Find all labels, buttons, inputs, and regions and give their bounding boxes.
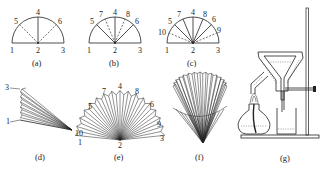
label-7: 7 bbox=[102, 87, 106, 96]
pleat-top bbox=[22, 88, 26, 89]
panel-a: 1 2 3 4 5 6 (a) bbox=[10, 8, 65, 68]
label-2: 2 bbox=[118, 141, 122, 150]
pleat-edge bbox=[21, 94, 23, 97]
caption-f: (f) bbox=[195, 152, 204, 162]
label-8: 8 bbox=[126, 10, 130, 19]
label-10: 10 bbox=[75, 129, 83, 138]
label-3: 3 bbox=[216, 46, 220, 55]
panel-d bbox=[20, 88, 72, 130]
label-6: 6 bbox=[150, 100, 154, 109]
leader-3 bbox=[10, 88, 20, 89]
label-2: 2 bbox=[113, 46, 117, 55]
crease-2-6 bbox=[193, 25, 211, 43]
caption-c: (c) bbox=[187, 58, 197, 68]
panel-c: 1 2 3 4 5 6 7 8 9 10 (c) bbox=[158, 8, 221, 68]
stand-base bbox=[241, 135, 319, 138]
label-1: 1 bbox=[6, 117, 10, 126]
pleat-line bbox=[203, 82, 223, 143]
pleat-edge bbox=[21, 110, 23, 113]
label-4: 4 bbox=[113, 8, 117, 17]
label-1: 1 bbox=[78, 138, 82, 147]
label-3: 3 bbox=[138, 46, 142, 55]
label-8: 8 bbox=[203, 10, 207, 19]
panel-g: (g) bbox=[238, 8, 319, 163]
crease-2-7 bbox=[183, 19, 193, 43]
clamp-screw bbox=[313, 86, 316, 92]
label-6: 6 bbox=[58, 17, 62, 26]
jacket-outer bbox=[258, 52, 303, 91]
flame bbox=[250, 93, 258, 103]
inner-funnel bbox=[264, 56, 296, 100]
pleat-edge bbox=[21, 99, 23, 102]
crease-2-6 bbox=[38, 25, 56, 43]
label-1: 1 bbox=[10, 46, 14, 55]
flame-inner bbox=[252, 96, 256, 102]
label-2: 2 bbox=[191, 46, 195, 55]
pleat-edge bbox=[21, 115, 23, 118]
label-5: 5 bbox=[90, 17, 94, 26]
stand-rod bbox=[306, 8, 309, 135]
label-3: 3 bbox=[160, 134, 164, 143]
label-9: 9 bbox=[217, 26, 221, 35]
caption-e: (e) bbox=[114, 152, 124, 162]
center-point bbox=[192, 42, 194, 44]
label-7: 7 bbox=[99, 10, 103, 19]
side-arm-water bbox=[254, 77, 262, 85]
label-3: 3 bbox=[61, 46, 65, 55]
caption-g: (g) bbox=[280, 153, 290, 163]
caption-d: (d) bbox=[35, 152, 45, 162]
label-5: 5 bbox=[14, 17, 18, 26]
caption-b: (b) bbox=[109, 58, 119, 68]
label-4: 4 bbox=[36, 8, 40, 17]
label-4: 4 bbox=[191, 8, 195, 17]
diagram-canvas: 1 2 3 4 5 6 (a) 1 2 3 4 5 6 7 8 (b) bbox=[0, 0, 324, 178]
crease-2-7 bbox=[105, 19, 115, 43]
label-5: 5 bbox=[168, 17, 172, 26]
label-2: 2 bbox=[36, 46, 40, 55]
lamp-wick bbox=[253, 104, 256, 133]
center-point bbox=[114, 42, 116, 44]
crease-2-8 bbox=[193, 19, 203, 43]
beaker bbox=[277, 108, 296, 134]
pleat-edge bbox=[21, 89, 23, 92]
label-6: 6 bbox=[212, 15, 216, 24]
panel-f bbox=[173, 72, 227, 143]
crease-2-5 bbox=[20, 25, 38, 43]
side-arm bbox=[251, 72, 268, 94]
label-1: 1 bbox=[165, 46, 169, 55]
crease-2-5 bbox=[97, 25, 115, 43]
label-10: 10 bbox=[158, 28, 166, 37]
label-4: 4 bbox=[118, 82, 122, 91]
crease-2-8 bbox=[115, 19, 125, 43]
pleat-line bbox=[22, 94, 72, 130]
crease-2-5 bbox=[175, 25, 193, 43]
label-1: 1 bbox=[87, 46, 91, 55]
leader-1 bbox=[10, 120, 20, 122]
label-3: 3 bbox=[5, 83, 9, 92]
caption-a: (a) bbox=[32, 58, 42, 68]
center-point bbox=[37, 42, 39, 44]
crease-2-6 bbox=[115, 25, 133, 43]
panel-b: 1 2 3 4 5 6 7 8 (b) bbox=[87, 8, 142, 68]
pleat-edge bbox=[21, 105, 23, 108]
label-7: 7 bbox=[177, 10, 181, 19]
label-5: 5 bbox=[88, 102, 92, 111]
label-6: 6 bbox=[135, 17, 139, 26]
panel-e bbox=[75, 91, 165, 141]
label-8: 8 bbox=[135, 87, 139, 96]
label-9: 9 bbox=[157, 120, 161, 129]
